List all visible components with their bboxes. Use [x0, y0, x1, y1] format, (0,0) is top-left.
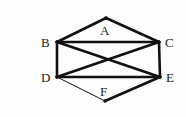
edge-f-e	[105, 77, 160, 101]
graph-canvas: ABCDEF	[0, 0, 186, 117]
edge-d-f	[57, 77, 105, 101]
node-d-dot	[55, 75, 59, 79]
edge-a-c	[106, 18, 159, 42]
node-a-label: A	[100, 23, 110, 38]
node-c-dot	[157, 40, 161, 44]
node-d-label: D	[41, 70, 50, 85]
node-a-dot	[104, 16, 108, 20]
node-f-label: F	[100, 84, 107, 99]
edge-a-b	[57, 18, 106, 42]
graph-diagram: ABCDEF	[0, 0, 186, 117]
node-e-dot	[158, 75, 162, 79]
node-b-label: B	[41, 35, 50, 50]
node-b-dot	[55, 40, 59, 44]
edge-c-e	[159, 42, 160, 77]
node-e-label: E	[166, 70, 174, 85]
node-c-label: C	[165, 35, 174, 50]
node-f-dot	[103, 99, 107, 103]
